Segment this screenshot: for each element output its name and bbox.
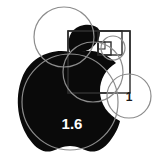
unit-circle-label: 1 <box>126 90 133 104</box>
golden-ratio-apple-figure: 1.6 1 <box>0 0 165 161</box>
body-ratio-label: 1.6 <box>62 115 83 132</box>
apple-golden-ratio-diagram: 1.6 1 <box>0 0 165 161</box>
